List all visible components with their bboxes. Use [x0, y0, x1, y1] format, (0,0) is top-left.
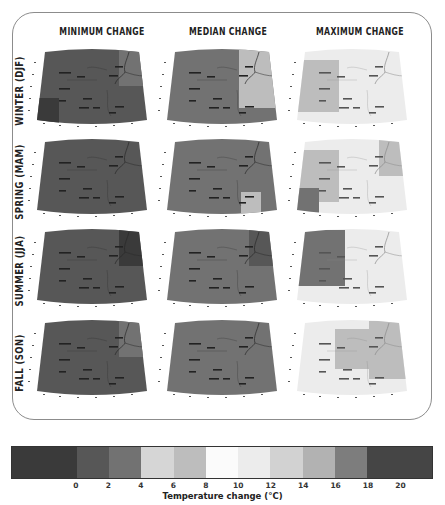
map-panel	[297, 230, 407, 304]
row-title-spring: SPRING (MAM)	[14, 144, 28, 221]
map-panel	[297, 321, 407, 395]
colorbar-tick-label: 20	[391, 481, 411, 490]
colorbar-tick-label: 0	[66, 481, 86, 490]
colorbar-bin	[335, 447, 367, 478]
row-title-winter: WINTER (DJF)	[14, 53, 28, 130]
map-panel	[37, 50, 147, 124]
map-panel	[37, 321, 147, 395]
colorbar-bin	[367, 447, 432, 478]
colorbar	[11, 446, 433, 479]
map-panel	[37, 230, 147, 304]
colorbar-tick-label: 10	[228, 481, 248, 490]
map-panel	[167, 140, 277, 214]
map-panel	[167, 321, 277, 395]
colorbar-tick-label: 6	[163, 481, 183, 490]
colorbar-bin	[109, 447, 141, 478]
map-panel	[37, 140, 147, 214]
colorbar-bin	[174, 447, 206, 478]
colorbar-bin	[77, 447, 109, 478]
colorbar-tick-label: 14	[293, 481, 313, 490]
colorbar-tick-label: 12	[261, 481, 281, 490]
colorbar-label: Temperature change (°C)	[0, 491, 445, 501]
row-title-summer: SUMMER (JJA)	[14, 233, 28, 310]
map-panel	[167, 50, 277, 124]
column-title-median: MEDIAN CHANGE	[175, 25, 282, 37]
colorbar-bin	[238, 447, 270, 478]
colorbar-bin	[206, 447, 238, 478]
colorbar-bin	[12, 447, 77, 478]
colorbar-tick-label: 16	[326, 481, 346, 490]
colorbar-bin	[141, 447, 173, 478]
column-title-minimum: MINIMUM CHANGE	[49, 25, 156, 37]
map-panel	[167, 230, 277, 304]
colorbar-tick-label: 2	[98, 481, 118, 490]
colorbar-bin	[303, 447, 335, 478]
map-panel	[297, 140, 407, 214]
column-title-maximum: MAXIMUM CHANGE	[307, 25, 414, 37]
colorbar-tick-label: 18	[358, 481, 378, 490]
colorbar-tick-label: 8	[196, 481, 216, 490]
row-title-fall: FALL (SON)	[14, 325, 28, 402]
colorbar-bin	[270, 447, 302, 478]
colorbar-tick-label: 4	[131, 481, 151, 490]
map-panel	[297, 50, 407, 124]
